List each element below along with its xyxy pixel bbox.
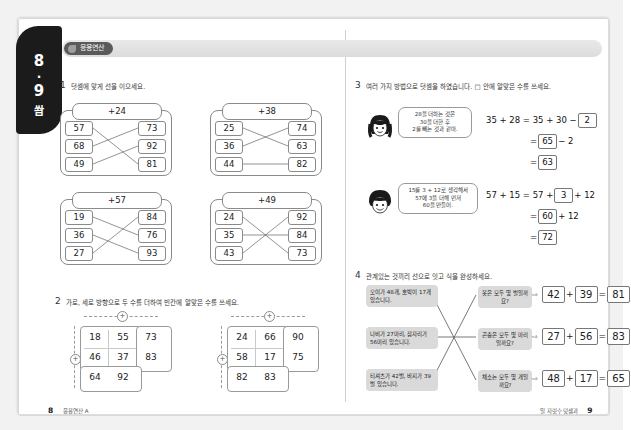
p4-eq1-a[interactable]: 42: [542, 286, 565, 303]
equation-1-answer-1[interactable]: 2: [578, 113, 597, 128]
grid-2-cell-2-0[interactable]: 82: [229, 368, 255, 387]
match-box-1-right-2[interactable]: 81: [138, 157, 166, 172]
equation-2-answer-1[interactable]: 3: [554, 188, 573, 203]
p4-eq3-plus: +: [566, 373, 574, 383]
equation-1-answer-3[interactable]: 63: [538, 155, 557, 170]
match-box-1-left-2[interactable]: 49: [65, 157, 93, 172]
grid-2-cell-2-1[interactable]: 83: [257, 368, 283, 387]
p4-eq2-b[interactable]: 56: [575, 328, 598, 345]
girl-speech-bubble: 28을 더하는 것은 30을 더한 후 2를 빼는 것과 같아.: [398, 107, 472, 138]
p4-eq1-equals: =: [599, 289, 607, 299]
question-bubble-1[interactable]: 옷은 모두 몇 벌일까요?: [478, 286, 532, 308]
grid-2-cells[interactable]: 24 66 90 58 17 75 82 83: [229, 328, 315, 388]
match-box-4-caption: +49: [222, 192, 312, 209]
grid-2-cell-0-1[interactable]: 66: [257, 328, 283, 347]
grid-1-cell-2-1[interactable]: 92: [110, 368, 136, 387]
match-box-4-right-2[interactable]: 73: [288, 246, 316, 261]
grid-2-cell-0-0[interactable]: 24: [229, 328, 255, 347]
p4-eq1-plus: +: [566, 289, 574, 299]
p4-eq1-result[interactable]: 81: [607, 286, 630, 303]
arrow-icon-2: ⇨: [532, 333, 538, 341]
section-badge: 응용연산: [64, 42, 113, 55]
equation-2-line-3: =72: [530, 230, 558, 245]
tab-left-page: 8: [16, 52, 62, 70]
problem-1-number: 1: [60, 80, 66, 90]
grid-2-cell-1-0[interactable]: 58: [229, 348, 255, 367]
match-box-3-right-2[interactable]: 93: [138, 246, 166, 261]
match-box-2-left-0[interactable]: 25: [215, 121, 243, 136]
match-box-2-right-1[interactable]: 63: [288, 139, 316, 154]
match-box-4[interactable]: +49 24 35 43 92 84 73: [210, 192, 322, 264]
match-box-2-left-2[interactable]: 44: [215, 157, 243, 172]
question-bubble-3[interactable]: 채소는 모두 몇 개일까요?: [478, 370, 532, 392]
grid-1-cell-1-0[interactable]: 46: [82, 348, 108, 367]
match-box-1[interactable]: +24 57 68 49 73 92 81: [60, 103, 172, 175]
match-box-4-left-0[interactable]: 24: [215, 210, 243, 225]
sum-grid-1[interactable]: + + 18 55 73 46 37 83 64 92: [68, 316, 178, 396]
grid-2-cell-1-2[interactable]: 75: [285, 348, 311, 367]
footer-right: 일 자릿수 덧셈과 9: [540, 406, 592, 415]
equation-1-answer-2[interactable]: 65: [538, 134, 557, 149]
problem-3-prompt: 여러 가지 방법으로 덧셈을 하였습니다. □ 안에 알맞은 수를 쓰세요.: [366, 81, 551, 91]
equation-2-answer-3[interactable]: 72: [538, 230, 557, 245]
section-badge-label: 응용연산: [80, 44, 104, 52]
p4-eq2-result[interactable]: 83: [607, 328, 630, 345]
boy-speech-bubble: 15를 3 + 12로 생각해서 57에 3을 더해 먼저 60을 만들어.: [398, 183, 478, 214]
match-box-2-left-1[interactable]: 36: [215, 139, 243, 154]
grid-2-plus-top: +: [264, 311, 275, 322]
tab-label: 쐄: [16, 102, 62, 118]
grid-1-cell-2-0[interactable]: 64: [82, 368, 108, 387]
equation-2-line-2: =60+ 12: [530, 209, 579, 224]
problem-1-prompt: 덧셈에 맞게 선을 이으세요.: [71, 81, 145, 91]
equation-1-line-1-prefix: 35 + 28 = 35 + 30 −: [486, 115, 577, 125]
grid-2-cell-0-2[interactable]: 90: [285, 328, 311, 347]
match-box-1-right-1[interactable]: 92: [138, 139, 166, 154]
equation-1-line-1: 35 + 28 = 35 + 30 −2: [486, 113, 598, 128]
boy-bubble-line-2: 57에 3을 더해 먼저: [404, 195, 472, 203]
tab-right-page: 9: [16, 82, 62, 100]
statement-bubble-1[interactable]: 오이가 48개, 호박이 17개 있습니다.: [366, 285, 438, 307]
match-box-3-left-2[interactable]: 27: [65, 246, 93, 261]
p4-eq1-b[interactable]: 39: [575, 286, 598, 303]
statement-bubble-2[interactable]: 나비가 27마리, 잠자리가 56마리 있습니다.: [366, 327, 438, 349]
match-box-1-left-1[interactable]: 68: [65, 139, 93, 154]
match-box-2-right-2[interactable]: 82: [288, 157, 316, 172]
equation-1-line-2-suffix: − 2: [558, 136, 573, 146]
match-box-3-right-1[interactable]: 76: [138, 228, 166, 243]
footer-right-text: 일 자릿수 덧셈과: [540, 408, 579, 414]
match-box-1-left-0[interactable]: 57: [65, 121, 93, 136]
match-box-1-right-0[interactable]: 73: [138, 121, 166, 136]
grid-1-plus-top: +: [117, 311, 128, 322]
match-box-4-right-1[interactable]: 84: [288, 228, 316, 243]
match-box-4-left-2[interactable]: 43: [215, 246, 243, 261]
match-box-3-left-0[interactable]: 19: [65, 210, 93, 225]
p4-eq3-b[interactable]: 17: [575, 370, 598, 387]
equation-1-line-2: =65− 2: [530, 134, 573, 149]
grid-1-cell-1-1[interactable]: 37: [110, 348, 136, 367]
match-box-4-right-0[interactable]: 92: [288, 210, 316, 225]
grid-1-cell-0-1[interactable]: 55: [110, 328, 136, 347]
footer-right-page: 9: [587, 406, 592, 415]
match-box-3-left-1[interactable]: 36: [65, 228, 93, 243]
equation-2-line-1-prefix: 57 + 15 = 57 +: [486, 190, 553, 200]
grid-1-cell-1-2[interactable]: 83: [138, 348, 164, 367]
sum-grid-2[interactable]: + + 24 66 90 58 17 75 82 83: [215, 316, 325, 396]
match-box-4-left-1[interactable]: 35: [215, 228, 243, 243]
match-box-1-caption: +24: [72, 103, 162, 120]
p4-eq3-a[interactable]: 48: [542, 370, 565, 387]
p4-eq2-a[interactable]: 27: [542, 328, 565, 345]
p4-eq3-result[interactable]: 65: [607, 370, 630, 387]
match-box-3-right-0[interactable]: 84: [138, 210, 166, 225]
statement-bubble-3[interactable]: 티셔츠가 42벌, 바지가 39벌 있습니다.: [366, 369, 438, 391]
grid-1-cells[interactable]: 18 55 73 46 37 83 64 92: [82, 328, 168, 388]
grid-2-cell-1-1[interactable]: 17: [257, 348, 283, 367]
equation-2-answer-2[interactable]: 60: [538, 209, 557, 224]
match-box-3[interactable]: +57 19 36 27 84 76 93: [60, 192, 172, 264]
match-box-2[interactable]: +38 25 36 44 74 63 82: [210, 103, 322, 175]
grid-1-cell-0-0[interactable]: 18: [82, 328, 108, 347]
grid-1-cell-0-2[interactable]: 73: [138, 328, 164, 347]
question-bubble-2[interactable]: 곤충은 모두 몇 마리일까요?: [478, 328, 532, 350]
match-box-2-right-0[interactable]: 74: [288, 121, 316, 136]
equation-2-line-1: 57 + 15 = 57 +3+ 12: [486, 188, 595, 203]
